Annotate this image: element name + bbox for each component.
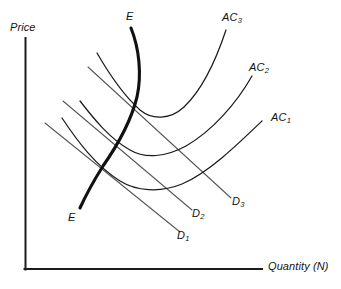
curve-label-d1-base: D [177,229,185,241]
curve-label-ac3-base: AC [222,11,237,23]
curve-label-ac2: AC2 [249,62,269,73]
average-cost-curve-ac3 [97,30,226,117]
curve-label-d3-sub: 3 [240,200,244,209]
average-cost-curves-group [62,30,262,190]
curve-label-ac3: AC3 [222,12,242,23]
envelope-curve-group [80,28,139,208]
y-axis-label-price: Price [10,22,36,33]
curve-label-d3-base: D [232,195,240,207]
curve-label-d2: D2 [192,208,204,219]
envelope-curve-ee [80,28,139,208]
curve-label-ac1: AC1 [271,112,291,123]
economics-diagram-figure: Price Quantity (N) E E AC3 AC2 AC1 D3 D2… [0,0,341,289]
average-cost-curve-ac2 [80,76,252,156]
envelope-label-e-top: E [126,11,133,22]
demand-line-d1 [45,123,180,232]
curve-label-ac2-sub: 2 [265,66,269,75]
curve-label-d1-sub: 1 [185,234,189,243]
x-axis-label-quantity: Quantity (N) [268,261,329,272]
curve-label-ac3-sub: 3 [238,16,242,25]
curve-label-ac1-base: AC [271,111,286,123]
curve-label-d2-sub: 2 [200,212,204,221]
curve-label-d3: D3 [232,196,244,207]
curve-label-d1: D1 [177,230,189,241]
curve-label-d2-base: D [192,207,200,219]
demand-line-d3 [88,67,231,198]
average-cost-curve-ac1 [62,118,262,190]
demand-line-d2 [63,101,192,210]
envelope-label-e-bottom: E [68,212,75,223]
curve-label-ac1-sub: 1 [287,116,291,125]
diagram-canvas [0,0,341,289]
curve-label-ac2-base: AC [249,61,264,73]
